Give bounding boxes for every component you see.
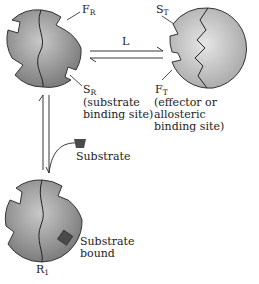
enzyme-r1-bound bbox=[5, 180, 82, 262]
label-sr-note-2: binding site) bbox=[83, 109, 153, 121]
enzyme-t-state bbox=[170, 8, 247, 88]
sr-pointer bbox=[70, 75, 82, 86]
fr-pointer bbox=[67, 12, 80, 20]
label-r1-sub: 1 bbox=[44, 268, 49, 277]
label-r1: R1 bbox=[36, 264, 49, 279]
label-fr: FR bbox=[82, 4, 95, 19]
label-ft-main: F bbox=[155, 83, 163, 96]
label-ft-note-3: binding site) bbox=[154, 121, 224, 133]
label-substrate-bound-2: bound bbox=[80, 248, 115, 260]
label-sr-main: S bbox=[83, 83, 91, 96]
equilibrium-arrows-horizontal bbox=[90, 47, 163, 62]
enzyme-r-state bbox=[7, 10, 81, 88]
label-st-sub: T bbox=[164, 8, 169, 17]
equilibrium-arrows-vertical bbox=[39, 95, 78, 173]
ft-pointer bbox=[162, 70, 172, 80]
label-st: ST bbox=[156, 4, 169, 19]
label-equilibrium-constant: L bbox=[122, 36, 129, 48]
label-substrate: Substrate bbox=[76, 151, 130, 163]
label-st-main: S bbox=[156, 3, 164, 16]
substrate-shape bbox=[74, 139, 86, 148]
label-fr-sub: R bbox=[90, 8, 96, 17]
label-fr-main: F bbox=[82, 3, 90, 16]
